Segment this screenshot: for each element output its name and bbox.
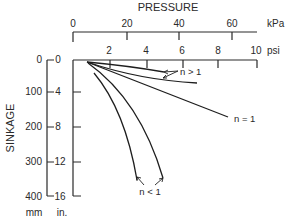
- psi-axis: 2 4 6 8 10 psi: [73, 45, 280, 68]
- mm-unit: mm: [26, 207, 43, 218]
- annotation-n-gt-1: n > 1: [163, 66, 201, 78]
- in-tick: 4: [55, 86, 61, 97]
- kpa-unit: kPa: [267, 18, 285, 29]
- sinkage-axis-title: SINKAGE: [4, 104, 16, 153]
- in-tick: 0: [55, 54, 61, 65]
- mm-tick: 400: [25, 191, 42, 202]
- kpa-tick: 0: [70, 18, 76, 29]
- psi-tick: 8: [215, 45, 221, 56]
- curves: [87, 62, 228, 180]
- sinkage-pressure-chart: PRESSURE 0 20 40 60 kPa 2 4 6 8 10 psi 0…: [0, 0, 290, 223]
- mm-tick: 100: [25, 86, 42, 97]
- psi-tick: 4: [143, 45, 149, 56]
- psi-tick: 2: [106, 45, 112, 56]
- in-tick: 12: [54, 156, 66, 167]
- in-tick: 16: [54, 191, 66, 202]
- psi-tick: 10: [250, 45, 262, 56]
- mm-axis: 0 100 200 300 400 mm: [25, 54, 54, 218]
- psi-tick: 6: [179, 45, 185, 56]
- kpa-tick: 20: [121, 18, 133, 29]
- curve-n-lt-1-a: [94, 73, 137, 180]
- in-unit: in.: [57, 207, 68, 218]
- annotation-n-eq-1: n = 1: [234, 113, 255, 124]
- annotation-n-lt-1: n < 1: [137, 177, 163, 197]
- mm-tick: 0: [36, 54, 42, 65]
- in-tick: 8: [55, 121, 61, 132]
- kpa-tick: 60: [226, 18, 238, 29]
- mm-tick: 300: [25, 156, 42, 167]
- pressure-axis-title: PRESSURE: [138, 1, 199, 13]
- mm-tick: 200: [25, 121, 42, 132]
- svg-text:n < 1: n < 1: [139, 186, 160, 197]
- kpa-axis: 0 20 40 60 kPa: [70, 18, 284, 42]
- kpa-tick: 40: [173, 18, 185, 29]
- inch-axis: 0 4 8 12 16 in.: [54, 54, 81, 218]
- svg-text:n > 1: n > 1: [180, 66, 201, 77]
- psi-unit: psi: [267, 45, 280, 56]
